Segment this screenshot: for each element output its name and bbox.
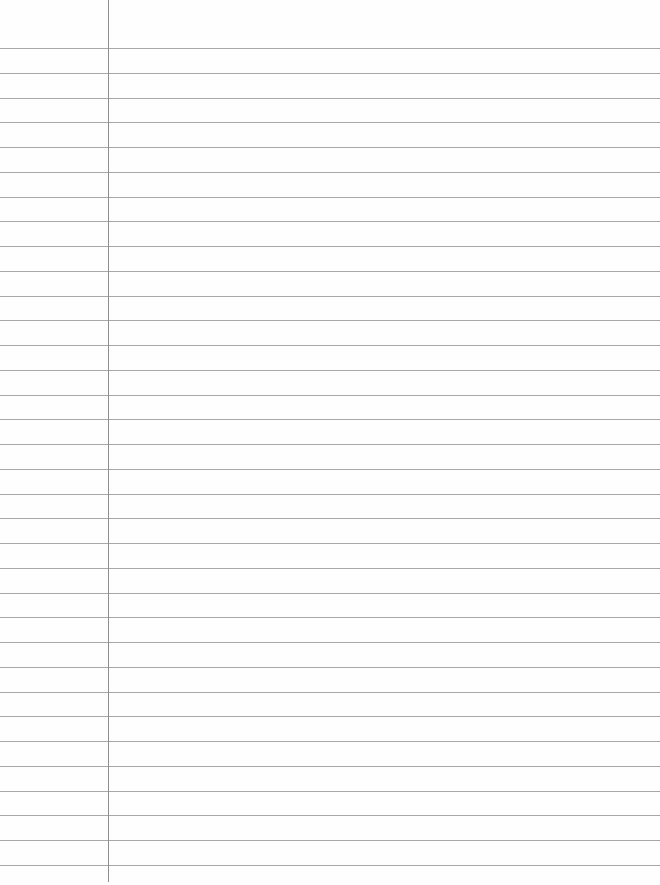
ruled-line xyxy=(0,568,660,569)
ruled-line xyxy=(0,518,660,519)
ruled-line xyxy=(0,840,660,841)
ruled-line xyxy=(0,172,660,173)
ruled-line xyxy=(0,147,660,148)
ruled-line xyxy=(0,815,660,816)
ruled-line xyxy=(0,197,660,198)
ruled-line xyxy=(0,741,660,742)
ruled-line xyxy=(0,345,660,346)
ruled-line xyxy=(0,320,660,321)
ruled-line xyxy=(0,766,660,767)
ruled-line xyxy=(0,791,660,792)
ruled-line xyxy=(0,642,660,643)
lined-paper-page xyxy=(0,0,660,885)
ruled-line xyxy=(0,617,660,618)
ruled-line xyxy=(0,716,660,717)
ruled-line xyxy=(0,73,660,74)
ruled-line xyxy=(0,221,660,222)
ruled-line xyxy=(0,296,660,297)
ruled-line xyxy=(0,692,660,693)
ruled-line xyxy=(0,271,660,272)
ruled-line xyxy=(0,667,660,668)
ruled-line xyxy=(0,246,660,247)
margin-line xyxy=(108,0,109,882)
ruled-line xyxy=(0,419,660,420)
ruled-line xyxy=(0,48,660,49)
ruled-line xyxy=(0,98,660,99)
ruled-line xyxy=(0,370,660,371)
ruled-line xyxy=(0,865,660,866)
ruled-line xyxy=(0,543,660,544)
ruled-line xyxy=(0,122,660,123)
ruled-line xyxy=(0,444,660,445)
ruled-line xyxy=(0,593,660,594)
ruled-line xyxy=(0,494,660,495)
ruled-line xyxy=(0,469,660,470)
ruled-line xyxy=(0,395,660,396)
